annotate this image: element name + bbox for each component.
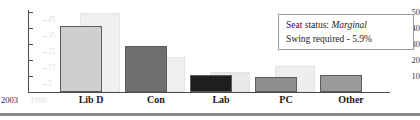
bar-chart: 50 40 30 20 10 45 35 25 15 5 Lib D Con L… <box>0 0 420 120</box>
bar-group-con <box>125 10 187 92</box>
bar-2003-lib-d <box>60 26 102 92</box>
bottom-rule <box>0 113 420 116</box>
x-label-other: Other <box>320 93 382 107</box>
seat-status-line: Seat status: Marginal <box>286 18 413 32</box>
x-label-lib-d: Lib D <box>60 93 122 107</box>
y-tick-secondary-5 <box>43 84 47 85</box>
y-tick-secondary-25 <box>43 52 47 53</box>
y-tick-secondary-45 <box>43 20 47 21</box>
bar-2003-lab <box>190 75 232 92</box>
legend-2003: 2003 <box>1 93 18 107</box>
y-tick-label-20: 20 <box>398 56 420 64</box>
y-tick-20 <box>28 60 33 61</box>
bar-group-lib-d <box>60 10 122 92</box>
y-tick-10 <box>28 76 33 77</box>
y-tick-40 <box>28 28 33 29</box>
y-tick-secondary-15 <box>43 68 47 69</box>
y-tick-secondary-35 <box>43 36 47 37</box>
y-tick-label-10: 10 <box>398 72 420 80</box>
y-tick-50 <box>28 12 33 13</box>
seat-status-label: Seat status: <box>286 20 329 30</box>
bar-2003-other <box>320 75 362 92</box>
bar-2003-pc <box>255 77 297 92</box>
seat-status-value: Marginal <box>331 20 367 30</box>
bar-group-lab <box>190 10 252 92</box>
x-label-pc: PC <box>255 93 317 107</box>
annotation-box: Seat status: Marginal Swing required - 5… <box>278 14 414 50</box>
x-label-lab: Lab <box>190 93 252 107</box>
y-axis-line <box>28 10 29 93</box>
legend-1999: 1999 <box>30 93 47 107</box>
y-tick-30 <box>28 44 33 45</box>
bar-2003-con <box>125 46 167 92</box>
swing-required-line: Swing required - 5.9% <box>286 32 413 46</box>
x-label-con: Con <box>125 93 187 107</box>
